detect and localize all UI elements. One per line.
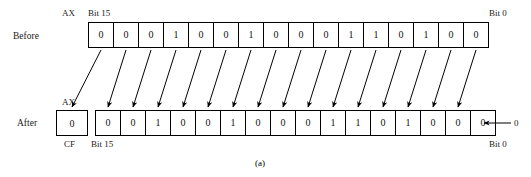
before-bit-2: 1: [413, 22, 439, 48]
before-bit-9: 1: [238, 22, 264, 48]
figure-caption: (a): [255, 158, 265, 168]
after-bit-11: 0: [195, 110, 221, 136]
before-row-label: Before: [13, 31, 39, 41]
shift-arrow-bit-1: [433, 50, 451, 107]
shift-arrow-bit-4: [358, 50, 376, 107]
after-bit-3: 1: [395, 110, 421, 136]
shift-arrow-bit-11: [183, 50, 201, 107]
before-bit-1: 0: [438, 22, 464, 48]
after-lsb-label: Bit 0: [489, 139, 507, 149]
after-bit-8: 0: [270, 110, 296, 136]
after-bit-9: 0: [245, 110, 271, 136]
shift-arrow-bit-12: [158, 50, 176, 107]
before-bit-11: 0: [188, 22, 214, 48]
shift-arrow-bit-14: [108, 50, 126, 107]
after-msb-label: Bit 15: [91, 139, 113, 149]
before-bit-5: 1: [338, 22, 364, 48]
before-bit-15: 0: [88, 22, 114, 48]
after-bit-15: 0: [95, 110, 121, 136]
shift-arrow-bit-13: [133, 50, 151, 107]
shift-arrow-bit-6: [308, 50, 326, 107]
shift-arrow-bit-5: [333, 50, 351, 107]
after-bit-12: 0: [170, 110, 196, 136]
shift-arrow-bit-7: [283, 50, 301, 107]
after-bit-10: 1: [220, 110, 246, 136]
shift-arrow-bit-0: [458, 50, 476, 107]
shift-arrow-bit-10: [208, 50, 226, 107]
after-bit-7: 0: [295, 110, 321, 136]
shift-arrow-bit-8: [258, 50, 276, 107]
carry-flag-box: 0: [56, 110, 88, 136]
after-bit-0: 0: [470, 110, 496, 136]
after-bit-6: 1: [320, 110, 346, 136]
before-bit-6: 0: [313, 22, 339, 48]
shift-left-diagram: Before AX Bit 15 Bit 0 0001001000110100 …: [0, 0, 531, 177]
before-bit-0: 0: [463, 22, 489, 48]
before-bit-12: 1: [163, 22, 189, 48]
before-bit-8: 0: [263, 22, 289, 48]
carry-flag-label: CF: [64, 139, 75, 149]
before-bit-7: 0: [288, 22, 314, 48]
before-bit-4: 1: [363, 22, 389, 48]
after-bit-1: 0: [445, 110, 471, 136]
shift-arrow-bit-2: [408, 50, 426, 107]
shift-arrow-bit-15: [72, 50, 101, 107]
before-msb-label: Bit 15: [88, 8, 110, 18]
after-bit-13: 1: [145, 110, 171, 136]
after-register-label: AX: [62, 97, 75, 107]
shift-arrow-bit-9: [233, 50, 251, 107]
after-bit-2: 0: [420, 110, 446, 136]
after-register-bits: 0010010001101000: [95, 110, 496, 136]
before-register-bits: 0001001000110100: [88, 22, 489, 48]
after-row-label: After: [17, 118, 37, 128]
after-bit-14: 0: [120, 110, 146, 136]
shift-in-value-label: 0: [514, 118, 519, 128]
before-bit-14: 0: [113, 22, 139, 48]
after-bit-5: 1: [345, 110, 371, 136]
after-bit-4: 0: [370, 110, 396, 136]
shift-arrow-bit-3: [383, 50, 401, 107]
before-bit-13: 0: [138, 22, 164, 48]
before-register-label: AX: [62, 8, 75, 18]
before-lsb-label: Bit 0: [489, 8, 507, 18]
before-bit-3: 0: [388, 22, 414, 48]
before-bit-10: 0: [213, 22, 239, 48]
